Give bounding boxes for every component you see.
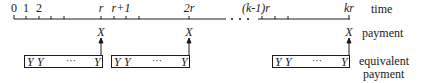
- payment-symbol: X: [345, 26, 352, 38]
- box2-y1: Y: [114, 56, 121, 68]
- box1-y1: Y: [27, 56, 34, 68]
- ellipsis-dot: [247, 18, 249, 20]
- tick-label-r: r: [99, 2, 104, 14]
- payment-label: payment: [362, 27, 403, 39]
- tick-label-2: 2: [36, 2, 42, 14]
- box2-ylast: Y: [181, 56, 188, 68]
- tick-label-k-minus-1-r: (k-1)r: [242, 2, 270, 14]
- box2-y2: Y: [124, 56, 131, 68]
- tick-label-2r: 2r: [184, 2, 195, 14]
- box3-y1: Y: [275, 56, 282, 68]
- box1-dots: ···: [66, 55, 76, 67]
- box3-y2: Y: [285, 56, 292, 68]
- timeline-label: time: [371, 3, 392, 15]
- ellipsis-dot: [231, 18, 233, 20]
- box3-ylast: Y: [341, 56, 348, 68]
- box1-ylast: Y: [94, 56, 101, 68]
- box3-dots: ···: [312, 55, 322, 67]
- box2-dots: ···: [152, 55, 162, 67]
- equivalent-label-line1: equivalent: [359, 55, 409, 67]
- payment-symbol: X: [97, 26, 104, 38]
- tick-label-kr: kr: [344, 2, 354, 14]
- diagram-graphics: [0, 0, 421, 83]
- box1-y2: Y: [37, 56, 44, 68]
- tick-label-r-plus-1: r+1: [112, 2, 131, 14]
- tick-label-1: 1: [23, 2, 29, 14]
- tick-label-0: 0: [11, 2, 17, 14]
- payment-symbol: X: [185, 26, 192, 38]
- timeline-ticks: [14, 15, 349, 19]
- ellipsis-dot: [239, 18, 241, 20]
- equivalent-label-line2: payment: [363, 68, 404, 80]
